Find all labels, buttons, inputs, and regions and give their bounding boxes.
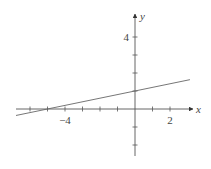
y-tick-label: 4 bbox=[124, 31, 130, 43]
x-tick-label: 2 bbox=[167, 114, 173, 126]
x-tick-label: −4 bbox=[59, 114, 71, 126]
series-line bbox=[16, 80, 190, 116]
chart: −424 x y bbox=[0, 0, 211, 169]
y-axis-label: y bbox=[139, 10, 145, 22]
x-axis-label: x bbox=[195, 103, 201, 115]
